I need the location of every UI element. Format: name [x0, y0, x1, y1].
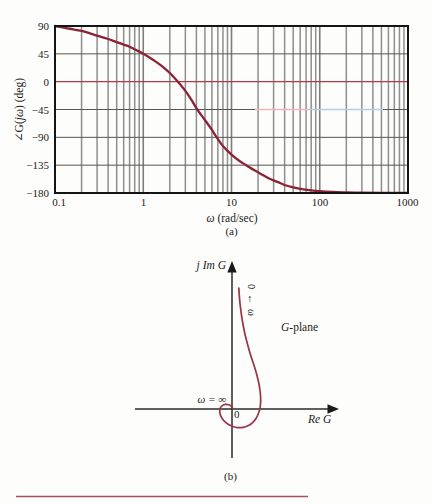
omega-to-zero-annotation: 0 ← ω	[245, 284, 257, 317]
x-axis-tick-label: 10	[212, 196, 252, 208]
y-axis-title-italic-part: jω	[13, 109, 25, 120]
x-axis-tick-label: 1000	[388, 196, 428, 208]
y-axis-title-part: ∠G(	[13, 120, 25, 142]
x-axis-tick-label: 1	[124, 196, 164, 208]
x-axis-tick-label: 0.1	[39, 196, 79, 208]
y-axis-tick-label: 90	[0, 20, 49, 32]
y-axis-title: ∠G(jω) (deg)	[13, 54, 25, 166]
y-axis-title-part: ) (deg)	[13, 78, 25, 109]
x-axis-title: ω (rad/sec)	[172, 212, 292, 224]
g-plane-label-part: -plane	[289, 321, 318, 333]
x-axis-title-part: (rad/sec)	[215, 212, 258, 224]
real-axis-label: Re G	[308, 413, 331, 425]
g-plane-label: G-plane	[281, 321, 318, 333]
omega-infinity-annotation: ω = ∞	[166, 393, 226, 405]
subfigure-b-caption: (b)	[211, 470, 251, 482]
subfigure-a-caption: (a)	[212, 225, 252, 237]
imaginary-axis-label: j Im G	[146, 259, 226, 271]
origin-label: 0	[234, 408, 240, 420]
x-axis-title-italic-part: ω	[206, 212, 214, 224]
x-axis-tick-label: 100	[300, 196, 340, 208]
textbook-figure-page: 90 45 0 −45 −90 −135 −180 0.1 1 10 100 1…	[0, 0, 432, 504]
figure-graphics-canvas	[0, 0, 432, 504]
